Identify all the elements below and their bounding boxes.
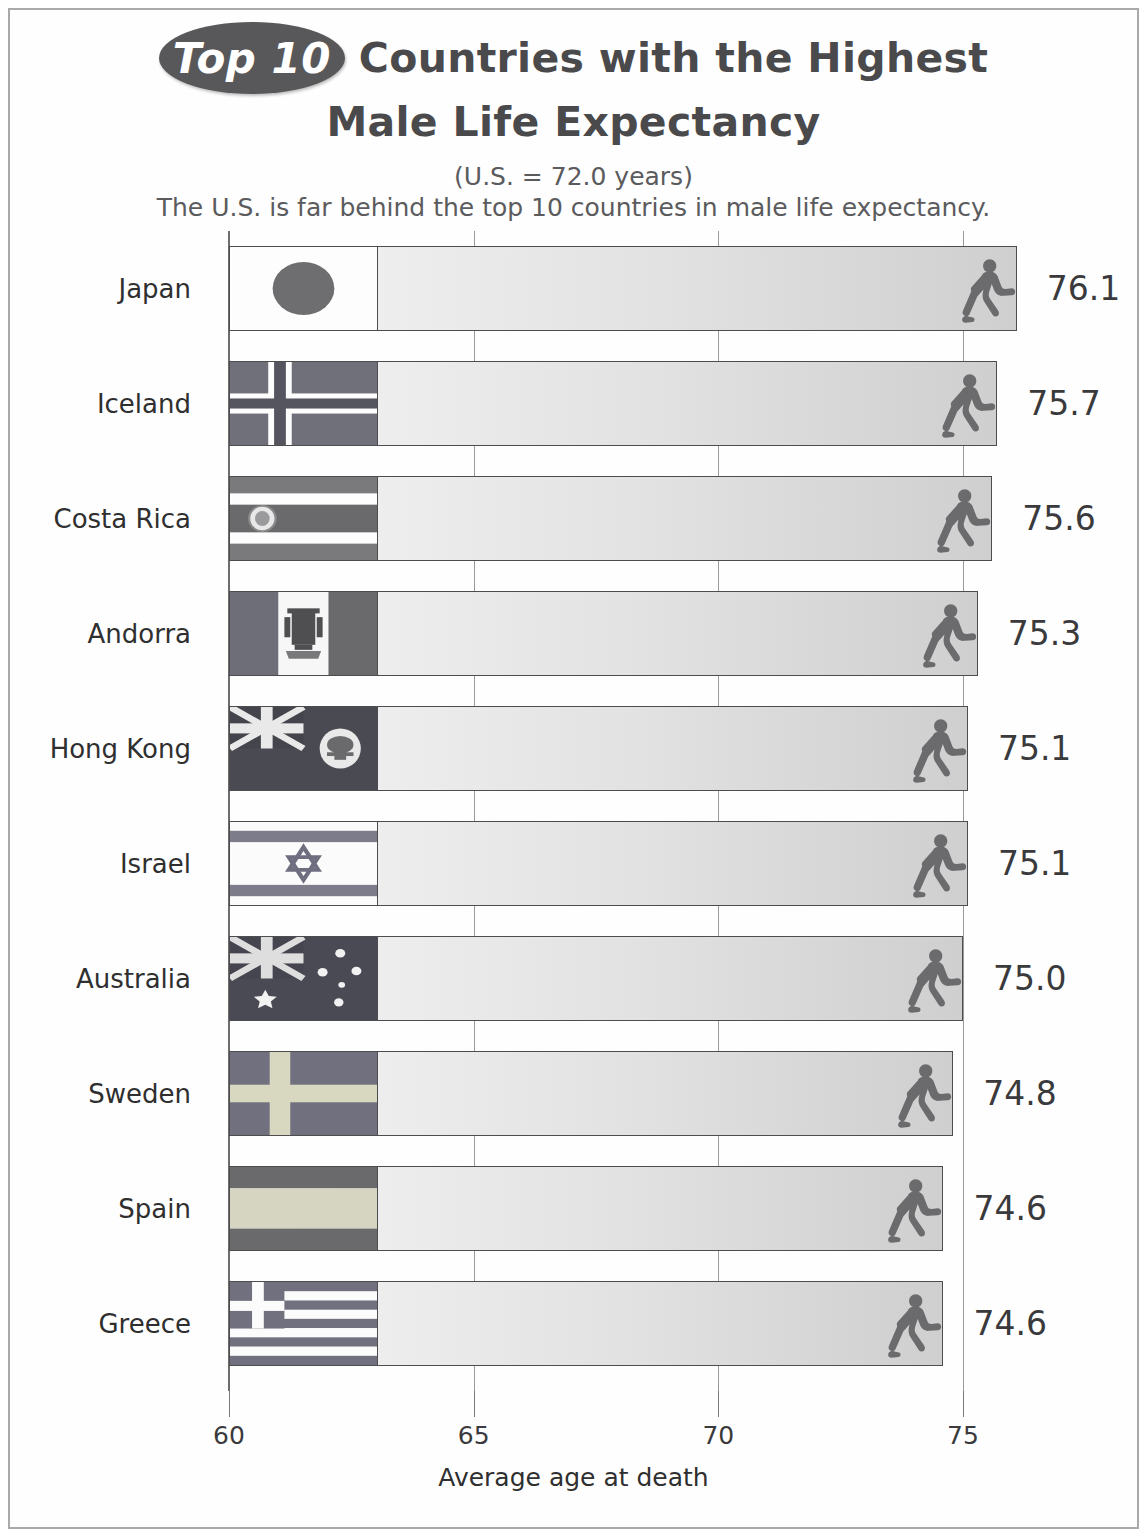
andorra-flag (230, 592, 378, 675)
chart-page: Top 10 Countries with the Highest Male L… (0, 0, 1147, 1537)
running-man-icon (958, 235, 1020, 347)
running-man-icon (919, 580, 981, 692)
value-label-japan: 76.1 (1047, 246, 1120, 331)
bar-row: Greece74.6 (0, 1266, 1147, 1381)
x-tick-70 (718, 1391, 719, 1417)
bar-row: Spain74.6 (0, 1151, 1147, 1266)
bar-row: Andorra75.3 (0, 576, 1147, 691)
x-tick-75 (963, 1391, 964, 1417)
running-man-icon (894, 1040, 956, 1152)
bar-australia (229, 936, 963, 1021)
greece-flag (230, 1282, 378, 1365)
x-axis: Average age at death 60657075 (0, 1391, 1147, 1491)
country-label-spain: Spain (0, 1151, 205, 1266)
country-label-costa-rica: Costa Rica (0, 461, 205, 576)
page-title-second-line: Male Life Expectancy (0, 98, 1147, 146)
australia-flag (230, 937, 378, 1020)
country-label-israel: Israel (0, 806, 205, 921)
value-label-australia: 75.0 (993, 936, 1066, 1021)
top10-badge: Top 10 (159, 22, 345, 94)
country-label-sweden: Sweden (0, 1036, 205, 1151)
running-man-icon (909, 695, 971, 807)
bar-iceland (229, 361, 997, 446)
subtitle-annotation: The U.S. is far behind the top 10 countr… (0, 193, 1147, 222)
country-label-greece: Greece (0, 1266, 205, 1381)
bar-row: Costa Rica75.6 (0, 461, 1147, 576)
bar-row: Sweden74.8 (0, 1036, 1147, 1151)
israel-flag (230, 822, 378, 905)
bar-row: Iceland75.7 (0, 346, 1147, 461)
bar-greece (229, 1281, 943, 1366)
bar-hong-kong (229, 706, 968, 791)
bar-japan (229, 246, 1017, 331)
bar-israel (229, 821, 968, 906)
bar-row: Israel75.1 (0, 806, 1147, 921)
value-label-greece: 74.6 (973, 1281, 1046, 1366)
plot-area: Japan76.1Iceland75.7Costa Rica75.6Andorr… (0, 231, 1147, 1391)
x-tick-60 (229, 1391, 230, 1417)
bar-andorra (229, 591, 978, 676)
bar-sweden (229, 1051, 953, 1136)
subtitle-us-value: (U.S. = 72.0 years) (0, 162, 1147, 191)
bar-costa-rica (229, 476, 992, 561)
value-label-sweden: 74.8 (983, 1051, 1056, 1136)
x-tick-label-75: 75 (947, 1421, 979, 1450)
x-tick-label-70: 70 (702, 1421, 734, 1450)
title-block: Top 10 Countries with the Highest Male L… (0, 22, 1147, 222)
page-title: Countries with the Highest (359, 34, 988, 82)
costa-rica-flag (230, 477, 378, 560)
bar-row: Japan76.1 (0, 231, 1147, 346)
value-label-spain: 74.6 (973, 1166, 1046, 1251)
running-man-icon (909, 810, 971, 922)
title-line-1: Top 10 Countries with the Highest (0, 22, 1147, 94)
country-label-iceland: Iceland (0, 346, 205, 461)
spain-flag (230, 1167, 378, 1250)
country-label-australia: Australia (0, 921, 205, 1036)
running-man-icon (884, 1155, 946, 1267)
sweden-flag (230, 1052, 378, 1135)
japan-flag (230, 247, 378, 330)
running-man-icon (938, 350, 1000, 462)
x-tick-label-60: 60 (213, 1421, 245, 1450)
bar-spain (229, 1166, 943, 1251)
country-label-andorra: Andorra (0, 576, 205, 691)
x-axis-title: Average age at death (0, 1463, 1147, 1492)
bar-row: Hong Kong75.1 (0, 691, 1147, 806)
value-label-israel: 75.1 (998, 821, 1071, 906)
running-man-icon (904, 925, 966, 1037)
x-tick-label-65: 65 (458, 1421, 490, 1450)
running-man-icon (933, 465, 995, 577)
value-label-hong-kong: 75.1 (998, 706, 1071, 791)
country-label-hong-kong: Hong Kong (0, 691, 205, 806)
value-label-andorra: 75.3 (1008, 591, 1081, 676)
value-label-iceland: 75.7 (1027, 361, 1100, 446)
value-label-costa-rica: 75.6 (1022, 476, 1095, 561)
country-label-japan: Japan (0, 231, 205, 346)
bar-row: Australia75.0 (0, 921, 1147, 1036)
iceland-flag (230, 362, 378, 445)
hong-kong-flag (230, 707, 378, 790)
x-tick-65 (474, 1391, 475, 1417)
running-man-icon (884, 1270, 946, 1382)
